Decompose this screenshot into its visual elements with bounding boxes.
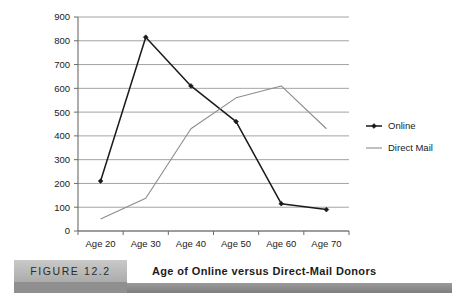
x-tick-label: Age 50	[221, 238, 251, 249]
legend-swatch-marker	[372, 124, 377, 129]
y-tick-label: 800	[54, 35, 70, 46]
data-point-marker	[324, 207, 329, 212]
line-chart: 0100200300400500600700800900 Age 20Age 3…	[0, 0, 452, 256]
y-tick-label: 500	[54, 107, 70, 118]
x-tick-label: Age 60	[266, 238, 296, 249]
data-point-marker	[98, 179, 103, 184]
legend-label: Direct Mail	[388, 142, 433, 153]
figure-caption-strip: FIGURE 12.2 Age of Online versus Direct-…	[0, 258, 452, 298]
y-tick-label: 100	[54, 202, 70, 213]
series-line-direct-mail	[101, 86, 327, 219]
x-tick-label: Age 30	[131, 238, 161, 249]
y-tick-label: 400	[54, 130, 70, 141]
y-tick-label: 200	[54, 178, 70, 189]
x-tick-label: Age 70	[311, 238, 341, 249]
y-tick-label: 0	[65, 225, 70, 236]
y-tick-label: 700	[54, 59, 70, 70]
chart-panel: 0100200300400500600700800900 Age 20Age 3…	[0, 0, 452, 256]
figure-number-badge: FIGURE 12.2	[14, 260, 127, 282]
figure-container: 0100200300400500600700800900 Age 20Age 3…	[0, 0, 452, 298]
data-series	[98, 35, 329, 219]
axes	[74, 17, 349, 231]
x-axis-tick-labels: Age 20Age 30Age 40Age 50Age 60Age 70	[86, 238, 342, 249]
y-tick-label: 300	[54, 154, 70, 165]
x-tick-label: Age 40	[176, 238, 206, 249]
caption-badge-shadow	[14, 282, 127, 293]
x-tick-marks	[78, 231, 349, 235]
y-axis-tick-labels: 0100200300400500600700800900	[54, 11, 70, 236]
figure-caption-title: Age of Online versus Direct-Mail Donors	[152, 260, 377, 282]
y-tick-label: 900	[54, 11, 70, 22]
chart-legend: OnlineDirect Mail	[366, 120, 433, 153]
figure-number-label: FIGURE 12.2	[30, 265, 111, 277]
x-tick-label: Age 20	[86, 238, 116, 249]
y-tick-label: 600	[54, 83, 70, 94]
legend-label: Online	[388, 120, 415, 131]
